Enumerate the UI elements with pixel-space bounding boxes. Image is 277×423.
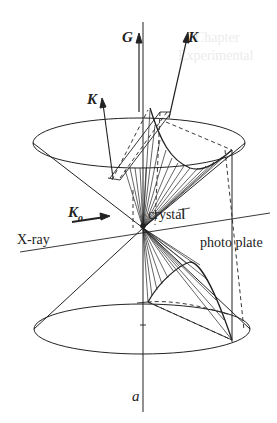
- laue-cone-diagram: [0, 0, 277, 423]
- lower-diffraction-curve: [148, 262, 232, 340]
- g-label: G: [122, 30, 133, 45]
- k0-arrowhead: [100, 213, 110, 220]
- k-top-label: K: [188, 30, 198, 45]
- k-left-label: K: [87, 92, 97, 107]
- axis-a-label: a: [132, 389, 140, 404]
- k0-label-main: K: [68, 204, 78, 220]
- crystal-point: [141, 224, 146, 229]
- k0-label-sub: o: [78, 212, 83, 223]
- upper-cone-rim: [33, 118, 245, 168]
- k-left-arrowhead: [100, 98, 106, 108]
- photo-plate-label: photo plate: [200, 236, 263, 250]
- upper-diffraction-curve: [150, 108, 232, 169]
- k0-label: Ko: [68, 205, 83, 223]
- xray-label: X-ray: [17, 233, 50, 247]
- reflecting-plane: [108, 112, 170, 180]
- g-arrowhead: [136, 33, 142, 43]
- crystal-label: crystal: [148, 208, 185, 222]
- k-vector-top: [169, 38, 187, 118]
- lower-cone-left-side: [34, 228, 143, 329]
